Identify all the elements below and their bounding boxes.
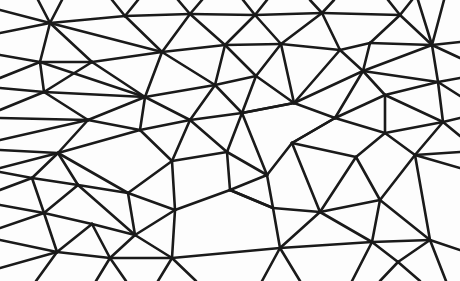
mesh-vertex (437, 81, 440, 84)
mesh-vertex (431, 44, 434, 47)
mesh-vertex (224, 44, 227, 47)
mesh-vertex (280, 43, 283, 46)
mesh-vertex (77, 184, 80, 187)
mesh-vertex (161, 51, 164, 54)
mesh-vertex (384, 132, 387, 135)
mesh-vertex (226, 151, 229, 154)
mesh-vertex (91, 223, 94, 226)
mesh-edge (190, 14, 255, 15)
mesh-vertex (369, 42, 372, 45)
mesh-vertex (291, 142, 294, 145)
mesh-vertex (214, 84, 217, 87)
mesh-canvas (0, 0, 460, 281)
mesh-vertex (293, 102, 296, 105)
mesh-vertex (241, 112, 244, 115)
mesh-vertex (384, 94, 387, 97)
mesh-vertex (255, 75, 258, 78)
mesh-figure (0, 0, 460, 281)
mesh-vertex (321, 12, 324, 15)
mesh-vertex (56, 251, 59, 254)
mesh-vertex (429, 239, 432, 242)
mesh-vertex (31, 177, 34, 180)
mesh-vertex (189, 13, 192, 16)
mesh-vertex (139, 129, 142, 132)
mesh-vertex (279, 247, 282, 250)
mesh-vertex (43, 91, 46, 94)
mesh-vertex (362, 70, 365, 73)
mesh-edge (225, 44, 281, 45)
mesh-vertex (43, 212, 46, 215)
mesh-vertex (319, 211, 322, 214)
mesh-vertex (57, 152, 60, 155)
mesh-vertex (371, 241, 374, 244)
mesh-vertex (91, 61, 94, 64)
mesh-vertex (189, 119, 192, 122)
mesh-vertex (171, 257, 174, 260)
mesh-vertex (355, 156, 358, 159)
mesh-vertex (87, 119, 90, 122)
mesh-vertex (144, 96, 147, 99)
mesh-vertex (49, 22, 52, 25)
mesh-vertex (134, 234, 137, 237)
mesh-vertex (397, 261, 400, 264)
mesh-vertex (124, 15, 127, 18)
mesh-vertex (254, 14, 257, 17)
mesh-vertex (442, 121, 445, 124)
mesh-vertex (127, 192, 130, 195)
mesh-vertex (272, 207, 275, 210)
mesh-vertex (39, 61, 42, 64)
mesh-vertex (109, 257, 112, 260)
mesh-vertex (379, 199, 382, 202)
mesh-vertex (171, 160, 174, 163)
mesh-vertex (266, 174, 269, 177)
mesh-vertex (334, 117, 337, 120)
mesh-vertex (414, 154, 417, 157)
mesh-vertex (399, 14, 402, 17)
mesh-vertex (174, 209, 177, 212)
mesh-vertex (339, 49, 342, 52)
mesh-vertex (229, 189, 232, 192)
